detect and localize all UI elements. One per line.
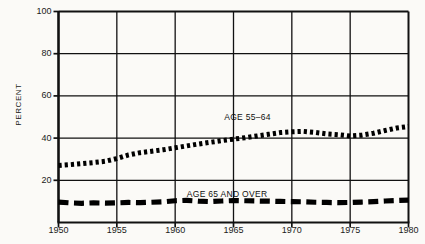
series-label-age-65-and-over: AGE 65 AND OVER <box>187 189 268 199</box>
chart-container: PERCENT 20406080100 19501955196019651970… <box>0 0 425 244</box>
series-line-2 <box>59 200 409 203</box>
plot-area <box>0 0 425 244</box>
series-label-age-55-64: AGE 55–64 <box>224 112 271 122</box>
